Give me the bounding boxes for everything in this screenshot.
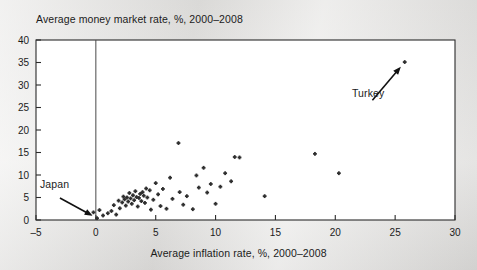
- svg-text:5: 5: [23, 192, 29, 203]
- svg-text:25: 25: [390, 227, 402, 238]
- svg-text:20: 20: [330, 227, 342, 238]
- svg-text:–5: –5: [30, 227, 42, 238]
- svg-text:40: 40: [18, 35, 30, 46]
- plot-frame: [36, 40, 455, 220]
- svg-text:30: 30: [449, 227, 461, 238]
- svg-text:30: 30: [18, 80, 30, 91]
- annotation-label-japan: Japan: [40, 178, 69, 190]
- svg-text:25: 25: [18, 102, 30, 113]
- svg-text:0: 0: [23, 215, 29, 226]
- scatter-plot: –5051015202530 0510152025303540 Japan Tu…: [0, 0, 477, 270]
- svg-text:10: 10: [210, 227, 222, 238]
- x-axis-label: Average inflation rate, %, 2000–2008: [0, 247, 477, 259]
- svg-text:35: 35: [18, 57, 30, 68]
- svg-text:20: 20: [18, 125, 30, 136]
- svg-text:15: 15: [270, 227, 282, 238]
- annotation-label-turkey: Turkey: [352, 87, 384, 99]
- svg-text:10: 10: [18, 170, 30, 181]
- plot-svg: –5051015202530 0510152025303540: [0, 0, 477, 270]
- svg-text:15: 15: [18, 147, 30, 158]
- svg-text:0: 0: [93, 227, 99, 238]
- svg-text:5: 5: [153, 227, 159, 238]
